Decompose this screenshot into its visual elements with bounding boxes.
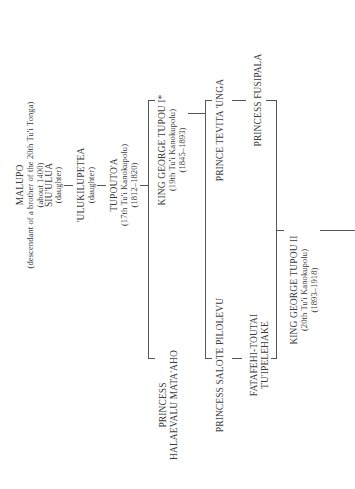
kgt2-name: KING GEORGE TUPOU II [289, 235, 299, 344]
kgt1-title: (19th Tu'i Kanokupolu) [167, 109, 177, 191]
kgt1-name: KING GEORGE TUPOU I* [157, 95, 167, 206]
tevita-unga-name: PRINCE TEVITA 'UNGA [215, 79, 225, 181]
halaevalu-line2: HALAEVALU MATA'AHO [169, 350, 179, 460]
connector-fusipala-bracket [266, 100, 276, 101]
ulukilupetea-note: (daughter) [86, 167, 96, 203]
kgt2-dates: (1893–1918) [309, 267, 319, 312]
tupoutoa-name: TUPOUTO'A [109, 158, 119, 212]
marriage-line-tevita-fusipala [232, 100, 246, 101]
halaevalu-line1: PRINCESS [158, 382, 168, 427]
bracket-kgt1-children [205, 100, 206, 359]
connector-tupoutoa-children [140, 185, 148, 186]
salote-pilolevu-name: PRINCESS SALOTE PILOLEVU [215, 298, 225, 432]
connector-siuulua-ulukilupetea [64, 185, 73, 186]
connector-to-salote [205, 358, 212, 359]
tupoutoa-title: (17th Tu'i Kanokupolu) [119, 144, 129, 226]
connector-to-kgt1 [148, 100, 155, 101]
kgt2-title: (20th Tu'i Kanokupolu) [299, 249, 309, 331]
tupoutoa-dates: (1812–1820) [129, 162, 139, 207]
siuulua-note: (daughter) [53, 167, 63, 203]
bracket-tupoutoa-children [148, 100, 149, 359]
kgt1-dates: (1845–1893) [177, 127, 187, 172]
ulukilupetea-name: 'ULUKILUPETEA [76, 148, 86, 223]
malupo-name: MALUPO [15, 165, 25, 206]
connector-to-tevita [205, 100, 212, 101]
connector-to-halaevalu [148, 358, 155, 359]
malupo-note: (descendant of a brother of the 20th Tu'… [25, 101, 35, 268]
connector-to-kgt2 [276, 230, 284, 231]
fatafehi-line2: TU'IPELEHAKE [260, 321, 270, 389]
fatafehi-line1: FATAFEHI-TOUTAI [249, 314, 259, 396]
marriage-line-salote-fatafehi [232, 358, 242, 359]
connector-kgt1-children [188, 113, 205, 114]
connector-ulukilupetea-tupoutoa [97, 185, 106, 186]
connector-kgt2-descendants [320, 230, 355, 231]
fusipala-name: PRINCESS FUSIPALA [253, 54, 263, 147]
